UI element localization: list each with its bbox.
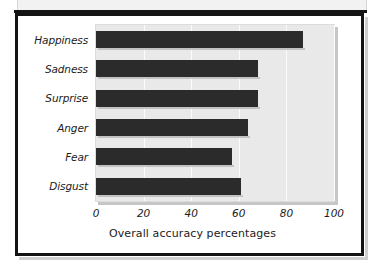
- bar-happiness: [96, 31, 303, 48]
- top-edge-strip: [17, 0, 367, 10]
- x-tick-label: 100: [324, 207, 344, 219]
- y-axis-category-labels: HappinessSadnessSurpriseAngerFearDisgust: [18, 25, 92, 201]
- x-tick-label: 20: [137, 207, 150, 219]
- category-label: Anger: [18, 113, 92, 142]
- category-label: Happiness: [18, 25, 92, 54]
- bar-chart: HappinessSadnessSurpriseAngerFearDisgust…: [18, 16, 367, 259]
- x-tick-label: 40: [185, 207, 198, 219]
- bar-row: [96, 172, 334, 201]
- x-axis-ticks: 020406080100: [96, 207, 334, 223]
- category-label: Sadness: [18, 54, 92, 83]
- x-tick-label: 60: [232, 207, 245, 219]
- x-tick-label: 80: [280, 207, 293, 219]
- chart-figure-page: HappinessSadnessSurpriseAngerFearDisgust…: [0, 0, 382, 273]
- figure-frame: HappinessSadnessSurpriseAngerFearDisgust…: [15, 13, 364, 256]
- bar-row: [96, 25, 334, 54]
- category-label: Disgust: [18, 172, 92, 201]
- bar-row: [96, 142, 334, 171]
- x-tick-label: 0: [93, 207, 100, 219]
- gridline-100: [334, 25, 335, 201]
- bar-fear: [96, 148, 232, 165]
- bar-anger: [96, 119, 248, 136]
- category-label: Surprise: [18, 84, 92, 113]
- bars-layer: [96, 25, 334, 201]
- x-axis-label: Overall accuracy percentages: [18, 227, 367, 240]
- bar-disgust: [96, 178, 241, 195]
- bar-surprise: [96, 90, 258, 107]
- category-label: Fear: [18, 142, 92, 171]
- bar-row: [96, 113, 334, 142]
- bar-row: [96, 54, 334, 83]
- bar-row: [96, 84, 334, 113]
- bar-sadness: [96, 60, 258, 77]
